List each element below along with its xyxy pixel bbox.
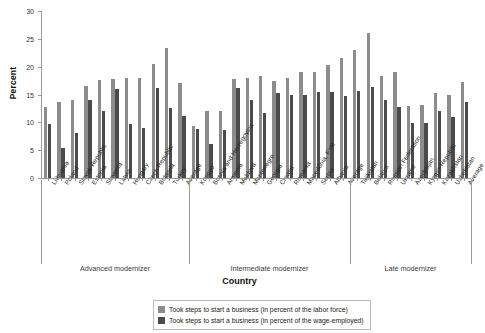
y-axis-tick-label: 15	[14, 91, 34, 98]
bar	[48, 124, 51, 178]
x-axis-title: Country	[0, 276, 479, 286]
y-axis-tick-label: 10	[14, 119, 34, 126]
bar	[152, 64, 155, 178]
group-separator	[350, 180, 351, 264]
group-bracket-edge	[471, 180, 472, 264]
legend-swatch-wage-employed	[158, 317, 165, 324]
bar	[299, 72, 302, 178]
y-axis-tick-label: 0	[14, 175, 34, 182]
y-axis-tick-label: 30	[14, 8, 34, 15]
bar	[178, 83, 181, 178]
bar	[313, 72, 316, 178]
bar	[111, 79, 114, 178]
y-axis-title: Percent	[8, 53, 18, 113]
bar	[44, 107, 47, 178]
y-axis-tick-label: 25	[14, 35, 34, 42]
bar	[353, 50, 356, 178]
group-label: Intermediate modernizer	[230, 264, 308, 273]
legend-label-labor-force: Took steps to start a business (in perce…	[169, 306, 348, 313]
bar	[340, 58, 343, 178]
bar	[330, 92, 333, 178]
legend-item-wage-employed: Took steps to start a business (in perce…	[158, 315, 364, 326]
bar	[125, 78, 128, 178]
group-separator	[189, 180, 190, 264]
y-axis-tick-label: 5	[14, 147, 34, 154]
group-bracket-edge	[41, 180, 42, 264]
chart-legend: Took steps to start a business (in perce…	[153, 300, 371, 330]
group-label: Late modernizer	[385, 264, 437, 273]
bar	[138, 78, 141, 178]
bar	[326, 65, 329, 178]
y-axis-tick-label: 20	[14, 63, 34, 70]
bar	[367, 33, 370, 178]
legend-item-labor-force: Took steps to start a business (in perce…	[158, 304, 364, 315]
group-label: Advanced modernizer	[80, 264, 150, 273]
legend-label-wage-employed: Took steps to start a business (in perce…	[169, 317, 364, 324]
bar	[232, 79, 235, 178]
bar	[393, 72, 396, 178]
x-axis-line	[41, 178, 471, 179]
legend-swatch-labor-force	[158, 306, 165, 313]
